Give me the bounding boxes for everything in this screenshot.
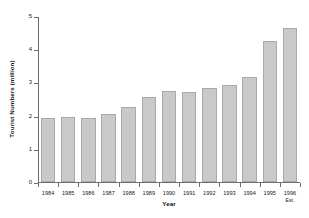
x-tick-label-1994: 1994 bbox=[240, 190, 260, 197]
x-tick-mark bbox=[78, 183, 79, 187]
x-tick-mark bbox=[98, 183, 99, 187]
y-tick-label: 4 bbox=[29, 46, 32, 53]
x-tick-label-1988: 1988 bbox=[119, 190, 139, 197]
bar-1987 bbox=[101, 114, 116, 182]
bar-1988 bbox=[121, 107, 136, 182]
bar-1996 bbox=[283, 28, 298, 182]
x-tick-mark bbox=[38, 183, 39, 187]
bar-1984 bbox=[41, 118, 56, 182]
bar-1995 bbox=[263, 41, 278, 182]
y-tick-label: 0 bbox=[29, 179, 32, 186]
y-tick-label: 5 bbox=[29, 13, 32, 20]
x-tick-mark bbox=[240, 183, 241, 187]
x-tick-label-1991: 1991 bbox=[179, 190, 199, 197]
y-tick-mark bbox=[34, 117, 39, 118]
y-tick-mark bbox=[34, 50, 39, 51]
x-tick-label-1984: 1984 bbox=[38, 190, 58, 197]
x-tick-mark bbox=[58, 183, 59, 187]
x-axis-title: Year bbox=[38, 200, 300, 207]
x-tick-mark bbox=[139, 183, 140, 187]
y-tick-mark bbox=[34, 150, 39, 151]
y-axis-line bbox=[38, 17, 39, 183]
bar-1986 bbox=[81, 118, 96, 182]
bar-1990 bbox=[162, 91, 177, 182]
x-tick-mark bbox=[179, 183, 180, 187]
x-tick-label-1992: 1992 bbox=[199, 190, 219, 197]
x-tick-mark bbox=[199, 183, 200, 187]
y-tick-label: 3 bbox=[29, 79, 32, 86]
bar-1991 bbox=[182, 92, 197, 182]
x-tick-mark bbox=[300, 183, 301, 187]
bar-1992 bbox=[202, 88, 217, 182]
y-tick-label: 1 bbox=[29, 146, 32, 153]
x-axis-line bbox=[38, 182, 300, 183]
x-tick-label-1995: 1995 bbox=[260, 190, 280, 197]
y-axis-title: Tourist Numbers (million) bbox=[6, 14, 18, 184]
x-tick-label-1989: 1989 bbox=[139, 190, 159, 197]
x-tick-label-1990: 1990 bbox=[159, 190, 179, 197]
x-tick-mark bbox=[280, 183, 281, 187]
x-tick-label-1987: 1987 bbox=[98, 190, 118, 197]
bar-1994 bbox=[242, 77, 257, 182]
plot-area: 012345 198419851986198719881989199019911… bbox=[38, 17, 300, 183]
x-tick-label-1986: 1986 bbox=[78, 190, 98, 197]
x-tick-mark bbox=[219, 183, 220, 187]
x-tick-mark bbox=[260, 183, 261, 187]
bar-1985 bbox=[61, 117, 76, 182]
bar-1989 bbox=[142, 97, 157, 182]
y-tick-label: 2 bbox=[29, 113, 32, 120]
tourist-numbers-bar-chart: Tourist Numbers (million) 012345 1984198… bbox=[0, 0, 309, 218]
y-tick-mark bbox=[34, 17, 39, 18]
bar-1993 bbox=[222, 85, 237, 182]
x-tick-mark bbox=[159, 183, 160, 187]
x-tick-label-1993: 1993 bbox=[219, 190, 239, 197]
y-tick-mark bbox=[34, 83, 39, 84]
x-tick-label-1985: 1985 bbox=[58, 190, 78, 197]
x-tick-mark bbox=[119, 183, 120, 187]
